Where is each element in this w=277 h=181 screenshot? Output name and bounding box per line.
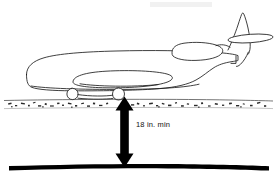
- gear-axle-line: [78, 95, 113, 96]
- gravel-speckles: [8, 102, 266, 108]
- dimension-arrow: [116, 97, 134, 168]
- ground-surface-line-lower: [4, 107, 273, 108]
- scan-smudge: [150, 2, 212, 7]
- arrow-shaft: [120, 109, 129, 156]
- airplane-side-view: [27, 13, 274, 100]
- gravel-ground-surface: [4, 99, 273, 108]
- aircraft-clearance-diagram: 18 in. min: [0, 0, 277, 181]
- wing-edge-on: [73, 71, 172, 88]
- diagram-canvas: [0, 0, 277, 181]
- nose-landing-gear-wheel: [67, 88, 78, 99]
- tail-cone-step: [231, 56, 236, 64]
- main-landing-gear-wheel: [113, 88, 125, 100]
- vertical-stabilizer: [228, 13, 250, 54]
- ground-surface-line: [4, 99, 273, 101]
- buried-utility-line: [9, 164, 269, 171]
- rear-mounted-engine-nacelle: [172, 42, 223, 60]
- dimension-label: 18 in. min: [136, 120, 170, 129]
